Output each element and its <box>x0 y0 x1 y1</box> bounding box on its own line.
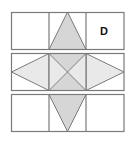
label-d: D <box>100 25 108 37</box>
middle-row <box>12 54 125 91</box>
top-row: D <box>12 12 125 50</box>
right-side-triangle <box>86 54 124 91</box>
left-side-triangle <box>12 54 50 91</box>
bottom-row <box>12 95 125 132</box>
top-triangle <box>49 12 86 50</box>
bottom-triangle <box>49 95 86 132</box>
pyramid-net-diagram: D <box>0 0 132 146</box>
